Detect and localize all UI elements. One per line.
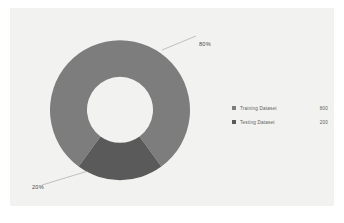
legend-item-testing-dataset[interactable]: Testing Dataset 200 [232,115,328,129]
legend-label-training: Training Dataset [240,106,310,111]
percentage-label-training: 80% [199,41,211,47]
legend-swatch-icon-testing [232,120,236,124]
legend-value-testing: 200 [310,120,328,125]
legend-value-training: 800 [310,106,328,111]
chart-legend: Training Dataset 800 Testing Dataset 200 [232,101,328,129]
leader-line-80-percent [162,36,196,50]
legend-item-training-dataset[interactable]: Training Dataset 800 [232,101,328,115]
leader-line-20-percent [42,171,88,185]
percentage-label-testing: 20% [32,184,44,190]
chart-panel: 80% 20% Training Dataset 800 Testing Dat… [10,8,334,206]
legend-swatch-icon-training [232,106,236,110]
legend-label-testing: Testing Dataset [240,120,310,125]
